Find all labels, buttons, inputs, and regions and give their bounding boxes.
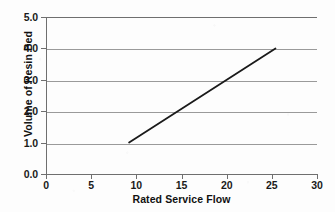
chart-figure: 5.0 4.0 3.0 2.0 1.0 0.0 0 5 10 15 20 25 … [0,0,335,212]
x-tick-label: 25 [257,180,287,191]
x-tick-label: 0 [31,180,61,191]
x-tick-label: 15 [167,180,197,191]
x-tick-label: 10 [121,180,151,191]
y-axis-title: Volume of Resin Bed [22,4,34,164]
x-tick-label: 30 [302,180,332,191]
y-tick-label: 0.0 [8,169,38,180]
series-line-chart [46,17,317,174]
x-axis-title: Rated Service Flow [46,193,317,205]
x-tick-label: 20 [212,180,242,191]
series-line-volume-of-resin-bed [129,48,275,142]
x-tick-label: 5 [76,180,106,191]
